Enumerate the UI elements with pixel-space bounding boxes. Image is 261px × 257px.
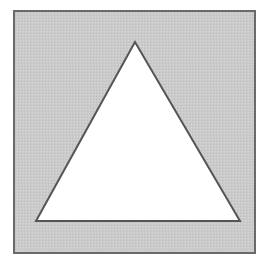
diagram-canvas — [0, 0, 261, 257]
